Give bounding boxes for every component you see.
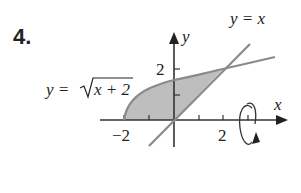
sqrt-curve-label: y = x + 2 (44, 78, 133, 99)
graph: y x −2 2 2 y = x y = x + 2 (0, 0, 301, 193)
svg-text:x + 2: x + 2 (93, 80, 131, 99)
line-label: y = x (228, 9, 266, 28)
tick-label-x-neg2: −2 (112, 126, 130, 145)
rotation-arrow-icon (240, 103, 260, 144)
y-axis-arrow-icon (169, 32, 179, 44)
y-axis-label: y (180, 27, 190, 46)
tick-label-x-2: 2 (218, 126, 227, 145)
x-axis-arrow-icon (276, 115, 288, 125)
tick-label-y-2: 2 (156, 60, 165, 79)
svg-text:y =: y = (44, 80, 69, 99)
x-axis-label: x (273, 95, 282, 114)
